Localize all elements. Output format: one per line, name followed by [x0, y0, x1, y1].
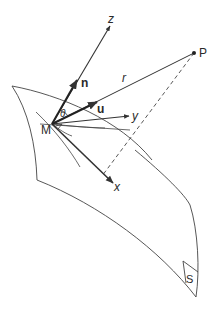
surface-top-edge: [12, 86, 152, 160]
label-z: z: [107, 12, 114, 26]
surface-geometry-diagram: M P z y x n u r θ S: [0, 0, 213, 313]
surface-left-edge: [12, 86, 37, 180]
label-s: S: [186, 273, 193, 285]
label-n: n: [81, 76, 88, 90]
x-axis: [52, 124, 113, 183]
surface-s: [12, 86, 198, 297]
label-p: P: [199, 46, 207, 60]
label-u: u: [97, 102, 104, 116]
label-theta: θ: [60, 108, 66, 119]
label-y: y: [131, 109, 139, 123]
label-r: r: [122, 71, 127, 85]
point-p-dot: [192, 51, 196, 55]
projection-dashed-line: [102, 53, 194, 176]
label-x: x: [113, 180, 121, 194]
surface-bottom-edge: [37, 180, 196, 297]
label-m: M: [41, 123, 51, 137]
